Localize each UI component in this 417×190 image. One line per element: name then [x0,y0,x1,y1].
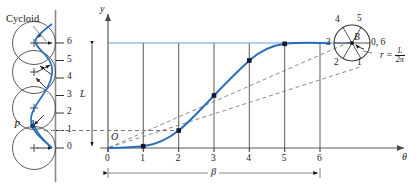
cycloid-title-label: Cycloid [6,14,39,25]
left-tick-label-6: 6 [67,37,72,47]
left-tick-label-1: 1 [67,125,72,135]
wheel-spoke-label-2: 2 [334,58,339,68]
left-tick-label-2: 2 [67,107,72,117]
wheel-spoke-label-4: 4 [335,15,340,25]
left-tick-label-3: 3 [67,90,72,100]
cycloid-leader-line [33,26,46,41]
data-point-4 [247,58,252,63]
x-tick-label-0: 0 [105,154,110,164]
beta-bracket-label: β [208,167,219,178]
data-point-1 [141,144,146,149]
circle-center-marks [30,39,38,152]
point-p-marker [30,124,35,129]
left-tick-label-0: 0 [67,142,72,152]
left-tick-label-5: 5 [67,55,72,65]
x-tick-label-2: 2 [176,154,181,164]
chart-gridlines [143,43,320,148]
cycloid-figure: Cycloid P 0 1 2 3 4 5 6 L y O 0 1 2 3 4 … [0,0,417,190]
wheel-diagram [334,25,372,61]
x-tick-label-1: 1 [140,154,145,164]
radius-arrows [37,43,52,148]
x-tick-label-3: 3 [211,154,216,164]
x-tick-label-6: 6 [317,154,322,164]
x-tick-label-4: 4 [246,154,251,164]
radius-formula-prefix: r = [380,50,392,60]
left-axis-ticks [56,43,64,148]
x-tick-label-5: 5 [282,154,287,164]
radius-formula: r = L 2π [380,47,405,65]
radius-denominator: 2π [395,56,405,64]
wheel-spoke-label-5: 5 [357,14,362,24]
left-tick-label-4: 4 [67,72,72,82]
cycloid-curve-main [108,43,330,148]
length-bracket-label: L [80,89,86,99]
data-point-2 [176,128,181,133]
chord-line-lower [109,67,360,148]
data-point-3 [212,93,217,98]
origin-label: O [111,132,118,142]
p-pointer-arrows [34,27,52,125]
point-p-label: P [14,120,20,130]
y-axis-label: y [100,4,104,14]
radius-formula-fraction: L 2π [395,47,405,65]
data-point-5 [282,42,287,47]
radius-arrow-wheel [356,45,365,50]
wheel-spoke-label-3: 3 [326,38,331,48]
chord-line-upper [109,41,352,148]
wheel-spoke-label-1: 1 [357,58,362,68]
theta-axis-label: θ [402,152,407,162]
figure-canvas [0,0,417,190]
wheel-center-label: B [354,33,360,43]
